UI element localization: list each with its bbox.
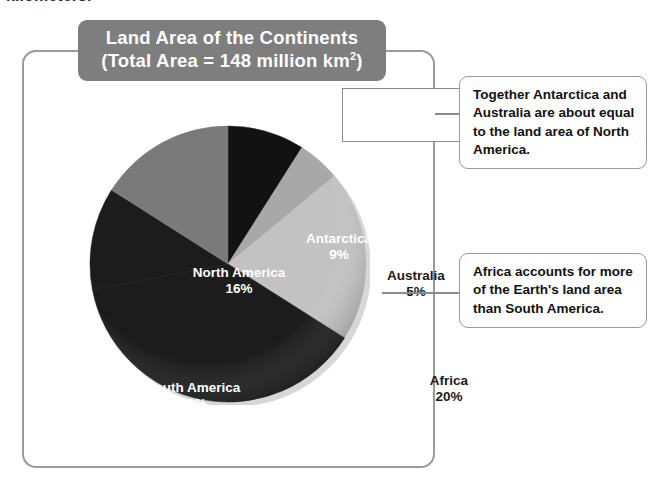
callout-2-leader-line	[382, 292, 460, 294]
chart-title-line-2: (Total Area = 148 million km2)	[88, 50, 376, 73]
chart-title-line-1: Land Area of the Continents	[88, 27, 376, 50]
cropped-caption-text: kilometers.	[6, 0, 92, 5]
chart-title-banner: Land Area of the Continents (Total Area …	[78, 20, 386, 81]
callout-note-antarctica-australia: Together Antarctica and Australia are ab…	[459, 76, 647, 169]
chart-title-total-prefix: (Total Area = 148 million km	[101, 50, 350, 71]
pie-shading-overlay	[90, 126, 366, 402]
callout-1-leader-box	[342, 88, 459, 142]
chart-title-total-suffix: )	[356, 50, 362, 71]
callout-note-antarctica-australia-text: Together Antarctica and Australia are ab…	[473, 86, 635, 159]
pie-label-europe-and-asia: Europe and Asia 38%	[200, 491, 362, 496]
callout-1-leader-line	[435, 113, 461, 115]
pie-chart-svg	[88, 123, 370, 405]
pie-label-europe-and-asia-name: Europe and Asia	[200, 491, 362, 496]
pie-chart: Antarctica 9% Australia 5% Africa 20% Eu…	[88, 123, 370, 405]
callout-note-africa: Africa accounts for more of the Earth's …	[459, 253, 647, 328]
callout-note-africa-text: Africa accounts for more of the Earth's …	[473, 263, 635, 318]
